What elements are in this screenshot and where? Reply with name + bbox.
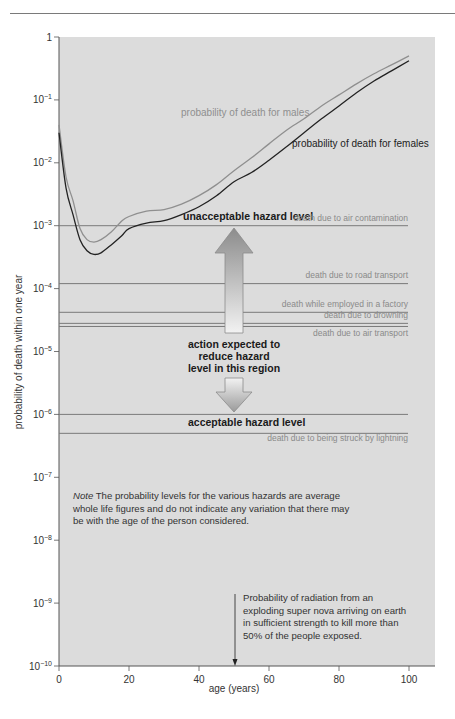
x-tick-label: 80	[333, 674, 345, 685]
female-curve-label: probability of death for females	[292, 138, 429, 149]
y-tick-label: 10−6	[33, 408, 52, 420]
x-tick-label: 60	[263, 674, 275, 685]
y-tick-label: 10−2	[33, 156, 52, 168]
note-body: The probability levels for the various h…	[73, 490, 349, 526]
air-contamination-label: death due to air contamination	[294, 213, 409, 223]
y-tick-label: 10−3	[33, 219, 52, 231]
y-tick-label: 1	[46, 32, 52, 43]
x-tick-label: 0	[56, 674, 62, 685]
y-tick-label: 10−8	[33, 534, 52, 546]
air-transport-label: death due to air transport	[313, 328, 409, 338]
road-transport-label: death due to road transport	[305, 270, 408, 280]
x-axis-title: age (years)	[209, 683, 260, 694]
x-tick-label: 100	[401, 674, 418, 685]
y-axis-ticks: 110−110−210−310−410−510−610−710−810−910−…	[29, 32, 59, 672]
male-curve-label: probability of death for males	[181, 107, 309, 118]
y-tick-label: 10−10	[29, 660, 52, 672]
y-tick-label: 10−4	[33, 282, 52, 294]
action-text-line3: level in this region	[188, 362, 280, 374]
y-tick-label: 10−5	[33, 345, 52, 357]
drowning-label: death due to drowning	[324, 310, 408, 320]
lightning-label: death due to being struck by lightning	[267, 433, 408, 443]
note-prefix: Note	[73, 490, 93, 501]
y-tick-label: 10−1	[33, 93, 52, 105]
note-text: Note The probability levels for the vari…	[73, 490, 353, 528]
y-tick-label: 10−7	[33, 471, 52, 483]
y-tick-label: 10−9	[33, 597, 52, 609]
action-text-line1: action expected to	[188, 338, 280, 350]
acceptable-level-label: acceptable hazard level	[188, 416, 305, 428]
supernova-annotation: Probability of radiation from an explodi…	[243, 592, 413, 642]
factory-label: death while employed in a factory	[282, 299, 409, 309]
x-tick-label: 40	[193, 674, 205, 685]
y-axis-title: probability of death within one year	[13, 274, 24, 429]
action-text-line2: reduce hazard	[198, 350, 269, 362]
x-tick-label: 20	[123, 674, 135, 685]
